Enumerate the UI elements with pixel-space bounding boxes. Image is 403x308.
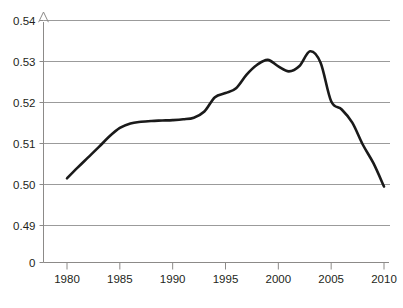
x-tick-label: 2005 bbox=[318, 273, 344, 285]
y-tick-label: 0.50 bbox=[13, 179, 35, 191]
y-tick-label: 0.49 bbox=[13, 220, 35, 232]
x-tick-label: 2010 bbox=[371, 273, 397, 285]
x-tick-label: 1990 bbox=[160, 273, 186, 285]
gridlines bbox=[44, 21, 391, 226]
y-tick-label: 0.54 bbox=[13, 15, 36, 27]
line-chart: 0.540.530.520.510.500.490 19801985199019… bbox=[0, 0, 403, 308]
x-tick-labels: 1980198519901995200020052010 bbox=[54, 273, 397, 285]
y-axis bbox=[39, 12, 49, 263]
figure-caption bbox=[6, 303, 196, 308]
x-tick-label: 1985 bbox=[107, 273, 133, 285]
y-tick-label: 0.51 bbox=[13, 138, 35, 150]
x-tick-label: 2000 bbox=[266, 273, 292, 285]
y-tick-label: 0.53 bbox=[13, 56, 35, 68]
x-tick-label: 1995 bbox=[213, 273, 239, 285]
data-series-line bbox=[67, 51, 384, 186]
y-tick-label: 0 bbox=[29, 257, 35, 269]
x-tick-label: 1980 bbox=[54, 273, 80, 285]
x-tick-marks bbox=[67, 263, 384, 270]
chart-container: 0.540.530.520.510.500.490 19801985199019… bbox=[0, 0, 403, 308]
y-tick-labels: 0.540.530.520.510.500.490 bbox=[13, 15, 43, 269]
y-tick-label: 0.52 bbox=[13, 97, 35, 109]
